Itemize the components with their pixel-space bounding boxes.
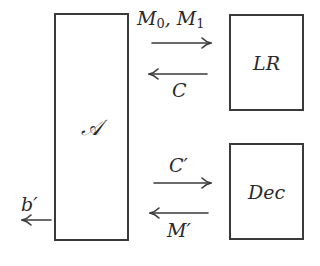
arrow-left-icon xyxy=(149,69,207,79)
edge-label-c: C xyxy=(172,79,187,101)
arrow-left-icon xyxy=(22,215,51,225)
edge-label-b-prime: b′ xyxy=(21,193,37,215)
edge-label-m-prime: M′ xyxy=(167,219,191,241)
arrows-layer xyxy=(0,0,320,266)
edge-label-m0-m1: M0, M1 xyxy=(137,7,205,31)
arrow-left-icon xyxy=(150,208,208,218)
edge-label-c-prime: C′ xyxy=(169,154,188,176)
arrow-right-icon xyxy=(152,38,211,48)
arrow-right-icon xyxy=(154,178,211,188)
